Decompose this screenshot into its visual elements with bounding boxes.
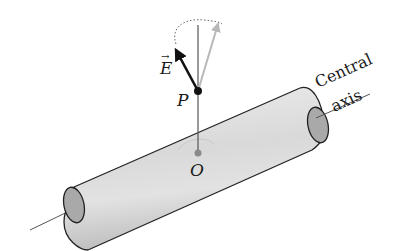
label-axis: axis	[328, 85, 365, 115]
label-o: O	[190, 160, 204, 180]
point-p-dot	[194, 87, 202, 95]
origin-o-dot	[195, 150, 202, 157]
label-central: Central	[312, 50, 375, 92]
cylinder-field-diagram: E → P O Central axis	[0, 0, 407, 251]
field-vector-e	[176, 50, 198, 91]
label-e-arrow: →	[161, 51, 170, 62]
ghost-vector	[198, 24, 218, 91]
label-p: P	[176, 90, 189, 110]
